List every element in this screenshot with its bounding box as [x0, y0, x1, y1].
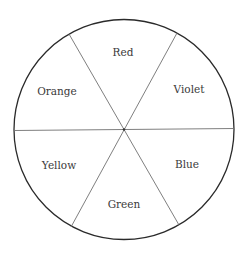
segment-label-green: Green	[108, 198, 141, 210]
segment-label-blue: Blue	[175, 158, 199, 170]
segment-label-yellow: Yellow	[41, 159, 76, 171]
segment-label-violet: Violet	[173, 83, 206, 95]
segment-label-orange: Orange	[37, 85, 77, 97]
color-wheel-diagram: Red Violet Blue Green Yellow Orange	[0, 0, 245, 255]
center-point	[123, 128, 125, 130]
segment-label-red: Red	[113, 46, 134, 58]
